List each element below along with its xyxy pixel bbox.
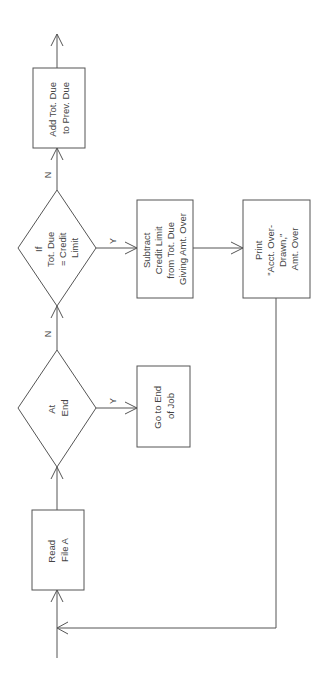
edge-label-if-yes: Y (108, 238, 118, 244)
node-label: = Credit (57, 232, 68, 266)
node-label: End (59, 400, 70, 417)
node-label: Drawn," (277, 234, 288, 267)
node-label: from Tot. Due (165, 222, 176, 279)
node-read-file-a: Read File A (32, 510, 84, 590)
node-label: Giving Amt. Over (177, 213, 188, 285)
edge-label-atend-no: N (43, 331, 53, 338)
node-print-acct-overdrawn: Print "Acct. Over- Drawn," Amt. Over (243, 200, 310, 298)
node-label: Subtract (141, 232, 152, 268)
node-label: Tot. Due (45, 232, 56, 267)
node-label: Limit (69, 238, 80, 258)
node-label: Amt. Over (289, 228, 300, 271)
node-label: of Job (165, 393, 176, 419)
node-subtract-credit-limit: Subtract Credit Limit from Tot. Due Givi… (137, 200, 193, 298)
flowchart-canvas: N Y N Y Read File A At End Go to End o (0, 0, 329, 696)
edge-label-atend-yes: Y (108, 398, 118, 404)
node-label: File A (59, 537, 70, 561)
node-label: Credit Limit (153, 226, 164, 274)
node-label: If (33, 246, 44, 252)
node-label: Read (46, 540, 57, 563)
node-label: At (46, 404, 57, 413)
node-label: to Prev. Due (60, 82, 71, 134)
node-at-end-decision: At End (18, 350, 96, 467)
node-label: Print (253, 240, 264, 260)
node-label: "Acct. Over- (265, 225, 276, 276)
node-if-credit-limit-decision: If Tot. Due = Credit Limit (18, 190, 96, 306)
edge-label-if-no: N (43, 172, 53, 179)
node-label: Add Tot. Due (47, 82, 58, 137)
node-label: Go to End (152, 386, 163, 429)
loop-back-line (57, 298, 276, 628)
node-go-to-end-of-job: Go to End of Job (137, 366, 190, 447)
node-add-tot-due: Add Tot. Due to Prev. Due (33, 68, 85, 148)
